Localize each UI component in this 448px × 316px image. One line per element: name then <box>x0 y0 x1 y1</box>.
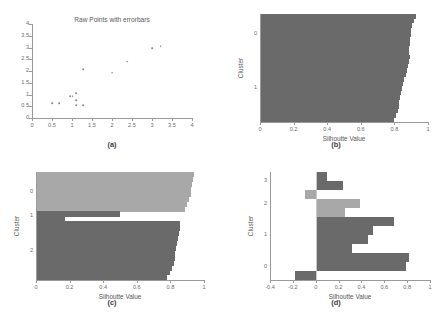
y-tick <box>29 24 32 25</box>
x-tick <box>72 118 73 121</box>
x-tick <box>260 122 261 125</box>
cluster-tick-label: 3 <box>256 178 267 184</box>
scatter-point <box>75 92 77 94</box>
panel-c-label: (c) <box>107 299 116 306</box>
y-tick <box>29 106 32 107</box>
y-tick <box>29 59 32 60</box>
x-tick-label: 0.5 <box>48 123 56 129</box>
cluster-tick-label: 1 <box>246 85 257 91</box>
cluster-tick-label: 0 <box>256 264 267 270</box>
scatter-point <box>82 68 84 70</box>
x-tick <box>384 280 385 283</box>
silhouette-bar <box>316 181 343 190</box>
x-tick <box>293 280 294 283</box>
y-tick-label: 3.5 <box>16 33 29 39</box>
cluster-tick-label: 1 <box>22 213 33 219</box>
x-tick <box>327 122 328 125</box>
x-tick-label: 1.5 <box>88 123 96 129</box>
x-tick <box>172 118 173 121</box>
silhouette-bar <box>316 199 361 208</box>
y-axis-title: Cluster <box>248 216 254 236</box>
scatter-point <box>75 100 77 102</box>
x-tick-label: 0.4 <box>323 127 331 133</box>
scatter-plot-a: 00.511.522.533.5400.511.522.533.54 <box>0 0 224 158</box>
cluster-tick-label: 2 <box>22 248 33 254</box>
panel-a-label: (a) <box>107 141 116 148</box>
cluster-tick-label: 2 <box>256 201 267 207</box>
silhouette-figure: 00.511.522.533.5400.511.522.533.54 Raw P… <box>0 0 448 316</box>
x-tick-label: 2.5 <box>128 123 136 129</box>
plot-frame-bottom <box>270 280 430 281</box>
plot-frame-left <box>260 14 261 122</box>
x-tick <box>36 280 37 283</box>
plot-frame-left <box>36 172 37 280</box>
x-tick <box>316 280 317 283</box>
x-tick <box>152 118 153 121</box>
x-tick-label: 0 <box>30 123 33 129</box>
x-tick-label: 1 <box>426 127 429 133</box>
x-tick-label: 2 <box>110 123 113 129</box>
panel-c: 01200.20.40.60.81Silhoutte ValueCluster … <box>0 158 224 316</box>
x-tick <box>170 280 171 283</box>
cluster-tick-label: 0 <box>22 189 33 195</box>
x-tick-label: 0.8 <box>403 285 411 291</box>
x-tick-label: 0.6 <box>380 285 388 291</box>
x-tick <box>92 118 93 121</box>
x-tick-label: 1 <box>70 123 73 129</box>
y-tick-label: 0 <box>16 115 29 121</box>
x-tick <box>32 118 33 121</box>
x-axis-title: Silhoutte Value <box>323 136 366 142</box>
panel-b-label: (b) <box>331 141 340 148</box>
x-tick-label: 0.4 <box>358 285 366 291</box>
x-tick <box>52 118 53 121</box>
panel-d: 3210-0.4-0.200.20.40.60.81Silhoutte Valu… <box>224 158 448 316</box>
scatter-point <box>160 45 162 47</box>
panel-d-label: (d) <box>331 299 340 306</box>
plot-frame-bottom <box>260 122 428 123</box>
scatter-point <box>75 104 77 106</box>
scatter-point <box>82 104 84 106</box>
x-tick-label: 0.6 <box>357 127 365 133</box>
y-tick <box>29 83 32 84</box>
x-tick-label: 0 <box>258 127 261 133</box>
x-tick <box>192 118 193 121</box>
scatter-point <box>111 72 113 74</box>
x-tick-label: 0.6 <box>133 285 141 291</box>
silhouette-plot-c: 01200.20.40.60.81Silhoutte ValueCluster <box>0 158 224 316</box>
silhouette-bar <box>316 208 345 217</box>
x-tick <box>407 280 408 283</box>
plot-frame-bottom <box>36 280 204 281</box>
scatter-point <box>126 61 128 63</box>
x-tick <box>339 280 340 283</box>
silhouette-plot-d: 3210-0.4-0.200.20.40.60.81Silhoutte Valu… <box>224 158 448 316</box>
plot-frame-left <box>270 172 271 280</box>
x-tick-label: -0.4 <box>265 285 275 291</box>
x-tick-label: 1 <box>202 285 205 291</box>
x-tick-label: 3.5 <box>168 123 176 129</box>
silhouette-bar <box>316 217 394 226</box>
zero-reference-line <box>316 172 317 280</box>
x-tick-label: 4 <box>190 123 193 129</box>
panel-b: 0100.20.40.60.81Silhoutte ValueCluster (… <box>224 0 448 158</box>
x-tick <box>394 122 395 125</box>
y-tick-label: 2 <box>16 68 29 74</box>
x-tick <box>361 122 362 125</box>
x-tick-label: 0.2 <box>335 285 343 291</box>
x-tick <box>428 122 429 125</box>
y-tick-label: 2.5 <box>16 56 29 62</box>
y-tick-label: 0.5 <box>16 103 29 109</box>
x-tick-label: 0.2 <box>290 127 298 133</box>
silhouette-bar <box>316 253 409 262</box>
y-tick <box>29 95 32 96</box>
x-tick <box>112 118 113 121</box>
x-tick-label: 0 <box>34 285 37 291</box>
panel-a: 00.511.522.533.5400.511.522.533.54 Raw P… <box>0 0 224 158</box>
x-axis-title: Silhoutte Value <box>99 294 142 300</box>
silhouette-bar <box>316 235 368 244</box>
silhouette-plot-b: 0100.20.40.60.81Silhoutte ValueCluster <box>224 0 448 158</box>
x-tick-label: -0.2 <box>288 285 298 291</box>
x-tick <box>430 280 431 283</box>
scatter-point <box>151 47 153 49</box>
y-tick-label: 3 <box>16 45 29 51</box>
scatter-point <box>58 103 60 105</box>
